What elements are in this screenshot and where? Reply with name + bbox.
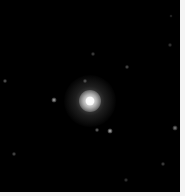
- point-source-star: [95, 128, 99, 132]
- point-source-star: [125, 65, 129, 69]
- point-source-star: [170, 15, 173, 18]
- point-source-star: [161, 162, 165, 166]
- point-source-star: [3, 79, 7, 83]
- point-source-star: [12, 152, 16, 156]
- bright-source-core: [86, 97, 95, 106]
- point-source-star: [124, 178, 128, 182]
- point-source-star: [173, 126, 178, 131]
- point-source-star: [91, 52, 95, 56]
- point-source-star: [168, 43, 172, 47]
- image-border-bottom: [0, 192, 185, 196]
- starfield-image: [0, 0, 180, 192]
- point-source-star: [83, 79, 87, 83]
- image-border-right: [180, 0, 185, 196]
- point-source-star: [52, 98, 57, 103]
- point-source-star: [108, 129, 113, 134]
